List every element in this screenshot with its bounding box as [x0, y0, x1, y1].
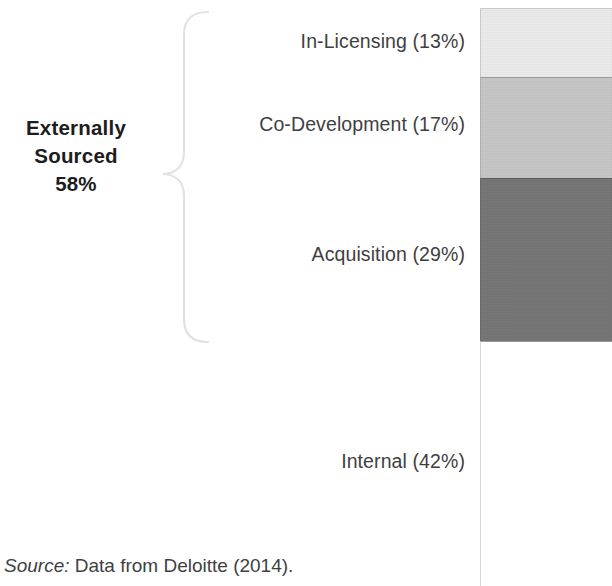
- bar-segment-internal: [480, 341, 612, 586]
- bar-segment-co-development: [480, 77, 612, 178]
- group-label-externally-sourced: Externally Sourced 58%: [0, 114, 152, 198]
- bar-grain-texture: [481, 179, 612, 341]
- bar-segment-in-licensing: [480, 8, 612, 77]
- group-label-line-1: Externally: [0, 114, 152, 142]
- bar-segment-acquisition: [480, 178, 612, 341]
- label-in-licensing: In-Licensing (13%): [301, 29, 465, 53]
- sourcing-mix-figure: In-Licensing (13%) Co-Development (17%) …: [0, 0, 612, 586]
- bar-grain-texture: [481, 9, 612, 77]
- label-co-development: Co-Development (17%): [259, 112, 465, 136]
- group-label-line-2: Sourced: [0, 142, 152, 170]
- grouping-brace: [158, 6, 214, 348]
- source-note-text: Data from Deloitte (2014).: [69, 555, 293, 576]
- label-internal: Internal (42%): [341, 449, 465, 473]
- label-acquisition: Acquisition (29%): [312, 242, 465, 266]
- bar-grain-texture: [481, 78, 612, 178]
- stacked-bar: [480, 8, 612, 586]
- source-note: Source: Data from Deloitte (2014).: [4, 553, 293, 579]
- group-label-line-3: 58%: [0, 170, 152, 198]
- source-note-prefix: Source:: [4, 555, 69, 576]
